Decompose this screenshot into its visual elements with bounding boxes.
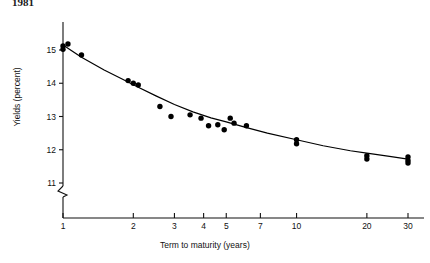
- x-axis-title: Term to maturity (years): [160, 240, 360, 250]
- data-point: [136, 82, 141, 87]
- data-point: [405, 160, 410, 165]
- x-tick-label: 20: [362, 221, 372, 231]
- data-point: [244, 123, 249, 128]
- y-tick-label: 14: [47, 78, 57, 88]
- x-tick-label: 30: [403, 221, 413, 231]
- data-point: [187, 112, 192, 117]
- y-axis-title: Yields (percent): [12, 42, 22, 152]
- x-tick-label: 7: [258, 221, 263, 231]
- x-tick-label: 10: [292, 221, 302, 231]
- data-point: [222, 127, 227, 132]
- x-tick-label: 5: [224, 221, 229, 231]
- x-tick-label: 2: [131, 221, 136, 231]
- curve-path: [63, 45, 408, 159]
- data-point: [65, 41, 70, 46]
- data-points: [60, 41, 410, 165]
- data-point: [198, 115, 203, 120]
- plot-svg: 1112131415 123457102030: [0, 0, 430, 263]
- x-tick-label: 4: [201, 221, 206, 231]
- data-point: [168, 114, 173, 119]
- y-tick-label: 11: [47, 178, 56, 188]
- fit-curve: [63, 45, 408, 159]
- x-tick-label: 1: [61, 221, 66, 231]
- x-axis: 123457102030: [61, 213, 424, 231]
- data-point: [215, 122, 220, 127]
- data-point: [206, 123, 211, 128]
- data-point: [364, 156, 369, 161]
- y-tick-label: 12: [47, 145, 57, 155]
- data-point: [60, 47, 65, 52]
- data-point: [79, 52, 84, 57]
- data-point: [231, 120, 236, 125]
- data-point: [228, 115, 233, 120]
- chart-container: 1981 Yields (percent) Term to maturity (…: [0, 0, 430, 263]
- x-tick-label: 3: [172, 221, 177, 231]
- data-point: [157, 104, 162, 109]
- chart-year-label: 1981: [12, 0, 34, 8]
- data-point: [131, 81, 136, 86]
- data-point: [294, 141, 299, 146]
- data-point: [125, 78, 130, 83]
- y-tick-label: 13: [47, 112, 57, 122]
- y-tick-label: 15: [47, 45, 57, 55]
